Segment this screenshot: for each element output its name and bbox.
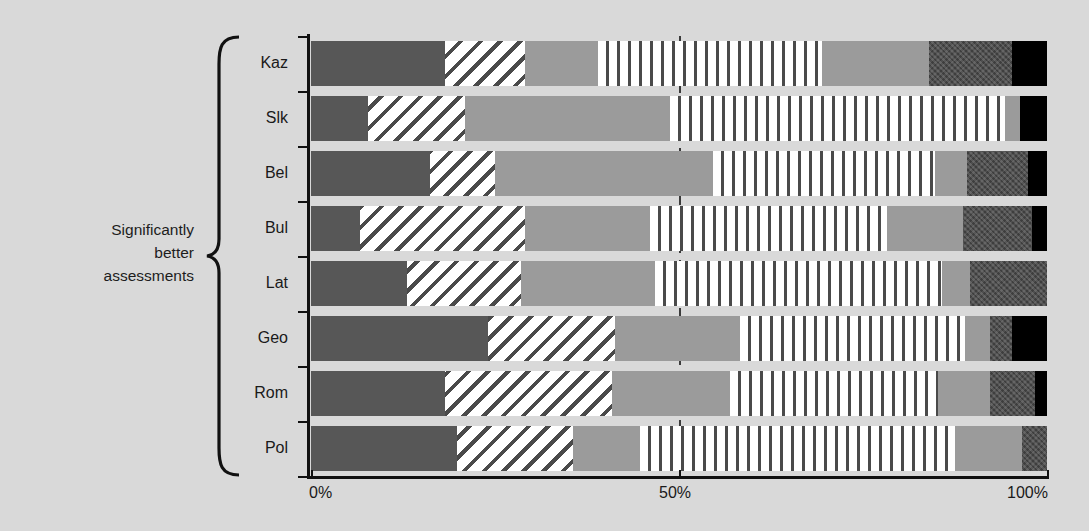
bar-segment-segment-5 (938, 371, 990, 416)
bar-segment-segment-3 (525, 206, 650, 251)
x-axis-label-50: 50% (659, 484, 691, 502)
category-label-rom: Rom (218, 384, 288, 402)
bar-segment-segment-5 (965, 316, 990, 361)
category-label-bul: Bul (218, 219, 288, 237)
y-axis-tick (298, 201, 307, 203)
bar-segment-segment-1 (311, 261, 407, 306)
bar-row (311, 206, 1047, 251)
bar-segment-segment-7 (1020, 96, 1047, 141)
bar-segment-segment-4 (640, 426, 955, 471)
bar-segment-segment-2 (488, 316, 615, 361)
bar-segment-segment-5 (935, 151, 967, 196)
bar-row (311, 41, 1047, 86)
x-axis-tick (1047, 470, 1049, 479)
bar-segment-segment-7 (1035, 371, 1047, 416)
bar-segment-segment-3 (495, 151, 713, 196)
bar-segment-segment-2 (457, 426, 573, 471)
y-axis-tick (298, 366, 307, 368)
x-axis-label-100: 100% (1007, 484, 1048, 502)
bar-row (311, 426, 1047, 471)
bar-segment-segment-6 (970, 261, 1047, 306)
y-axis-tick (298, 476, 307, 478)
bar-segment-segment-1 (311, 206, 360, 251)
y-axis-tick (298, 91, 307, 93)
bar-segment-segment-6 (990, 316, 1012, 361)
bar-segment-segment-2 (368, 96, 465, 141)
bar-segment-segment-3 (612, 371, 730, 416)
bar-segment-segment-6 (967, 151, 1028, 196)
bar-segment-segment-5 (887, 206, 963, 251)
stacked-bar-chart: Significantly better assessments KazSlkB… (0, 0, 1089, 531)
y-axis-line (307, 34, 310, 478)
bar-row (311, 371, 1047, 416)
y-axis-tick (298, 146, 307, 148)
bar-segment-segment-5 (1005, 96, 1020, 141)
bar-segment-segment-1 (311, 316, 488, 361)
bar-row (311, 316, 1047, 361)
bar-segment-segment-4 (740, 316, 965, 361)
bar-segment-segment-3 (525, 41, 598, 86)
x-axis-label-0: 0% (309, 484, 332, 502)
bar-segment-segment-5 (822, 41, 929, 86)
y-axis-tick (298, 421, 307, 423)
category-label-geo: Geo (218, 329, 288, 347)
category-label-slk: Slk (218, 109, 288, 127)
bar-segment-segment-4 (670, 96, 1005, 141)
bar-segment-segment-5 (942, 261, 970, 306)
bar-segment-segment-6 (1022, 426, 1047, 471)
group-annotation-label: Significantly better assessments (22, 218, 194, 287)
x-axis-line (307, 476, 1048, 479)
bar-segment-segment-3 (573, 426, 640, 471)
bar-segment-segment-2 (407, 261, 522, 306)
bar-segment-segment-4 (650, 206, 887, 251)
bar-segment-segment-1 (311, 96, 368, 141)
x-axis-tick (679, 470, 681, 479)
bar-segment-segment-2 (430, 151, 495, 196)
bar-segment-segment-3 (521, 261, 654, 306)
y-axis-tick (298, 256, 307, 258)
bar-segment-segment-4 (713, 151, 935, 196)
bar-segment-segment-6 (929, 41, 1013, 86)
bar-segment-segment-1 (311, 426, 457, 471)
bar-segment-segment-4 (598, 41, 822, 86)
bar-segment-segment-6 (990, 371, 1035, 416)
curly-brace-icon (203, 34, 245, 478)
bar-segment-segment-4 (655, 261, 942, 306)
bar-segment-segment-6 (963, 206, 1032, 251)
bar-segment-segment-3 (465, 96, 670, 141)
bar-segment-segment-2 (360, 206, 525, 251)
bar-segment-segment-7 (1028, 151, 1047, 196)
bar-segment-segment-2 (445, 41, 525, 86)
bar-segment-segment-4 (730, 371, 938, 416)
y-axis-tick (298, 36, 307, 38)
bar-segment-segment-1 (311, 151, 430, 196)
plot-area: KazSlkBelBulLatGeoRomPol (311, 36, 1047, 476)
x-axis-tick (311, 470, 313, 479)
category-label-lat: Lat (218, 274, 288, 292)
bar-segment-segment-3 (615, 316, 740, 361)
bar-segment-segment-5 (955, 426, 1022, 471)
y-axis-tick (298, 311, 307, 313)
bar-segment-segment-7 (1012, 41, 1047, 86)
bar-segment-segment-1 (311, 41, 445, 86)
bar-row (311, 96, 1047, 141)
bar-segment-segment-2 (445, 371, 612, 416)
category-label-bel: Bel (218, 164, 288, 182)
bar-segment-segment-1 (311, 371, 445, 416)
bar-row (311, 151, 1047, 196)
category-label-pol: Pol (218, 439, 288, 457)
category-label-kaz: Kaz (218, 54, 288, 72)
bar-segment-segment-7 (1012, 316, 1047, 361)
bar-segment-segment-7 (1032, 206, 1047, 251)
bar-row (311, 261, 1047, 306)
